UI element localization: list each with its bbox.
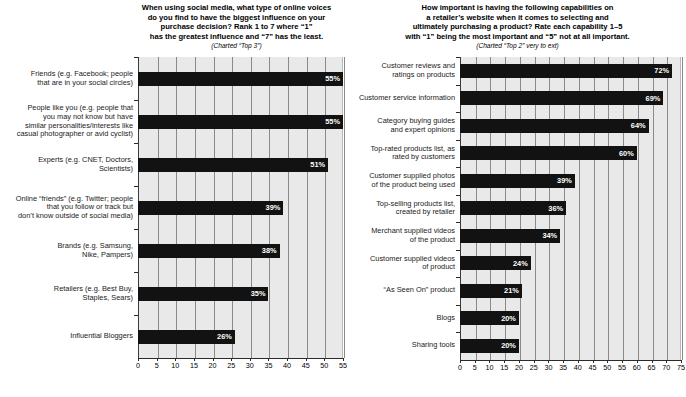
bar-row: Customer supplied photos of the product … [345,167,686,195]
x-axis-tick-label: 30 [246,362,254,369]
y-axis-tick [456,332,460,333]
x-axis-tick-label: 55 [618,364,626,371]
x-axis-tick-label: 0 [136,362,140,369]
bar-track: 39% [460,167,686,195]
chart-panel-left: When using social media, what type of on… [0,0,345,397]
bar: 64% [460,119,649,133]
bar-track: 24% [460,250,686,278]
bar-value-label: 39% [266,204,284,211]
bar-track: 72% [460,57,686,85]
bar-row: Online “friends” (e.g. Twitter; people t… [0,186,345,229]
bar-row: Retailers (e.g. Best Buy, Staples, Sears… [0,272,345,315]
x-axis-tick-label: 10 [171,362,179,369]
y-axis-tick [134,100,138,101]
bar-row: Blogs20% [345,305,686,333]
bar-track: 21% [460,277,686,305]
category-label: Merchant supplied videos of the product [345,227,460,244]
bar-row: Top-selling products list, created by re… [345,195,686,223]
x-axis-left: 0510152025303540455055 [0,358,345,374]
x-axis-tick-label: 0 [458,364,462,371]
x-axis-tick-label: 40 [283,362,291,369]
bar-row: Influential Bloggers26% [0,315,345,358]
plot-wrap-left: Friends (e.g. Facebook; people that are … [0,57,345,374]
bar-value-label: 51% [310,161,328,168]
x-axis-tick-label: 65 [648,364,656,371]
bar-row: Top-rated products list, as rated by cus… [345,140,686,168]
x-axis-tick-label: 25 [530,364,538,371]
y-axis-tick [134,229,138,230]
category-label: Top-selling products list, created by re… [345,200,460,217]
x-axis-tick-label: 30 [544,364,552,371]
y-axis-tick [456,222,460,223]
bar-value-label: 69% [646,95,664,102]
bar: 60% [460,146,637,160]
bar-track: 26% [138,315,345,358]
bar-value-label: 24% [513,260,531,267]
x-axis-tick-label: 45 [589,364,597,371]
y-axis-tick [134,186,138,187]
x-axis-tick-label: 70 [662,364,670,371]
bar-track: 39% [138,186,345,229]
bar-value-label: 34% [542,232,560,239]
bar: 55% [138,72,343,86]
chart-subtitle-right: (Charted “Top 2” very to ext) [345,41,686,50]
category-label: Online “friends” (e.g. Twitter; people t… [0,195,138,221]
x-axis-tick-label: 35 [559,364,567,371]
bar-track: 36% [460,195,686,223]
y-axis-tick [456,250,460,251]
bar-value-label: 21% [504,287,522,294]
bar: 72% [460,64,672,78]
category-label: Customer service information [345,94,460,103]
bar-track: 55% [138,57,345,100]
bar-row: Customer service information69% [345,85,686,113]
bar-value-label: 38% [262,247,280,254]
bar: 39% [138,201,283,215]
y-axis-tick [456,167,460,168]
bar-row: People like you (e.g. people that you ma… [0,100,345,143]
x-axis-tick-label: 75 [677,364,685,371]
bar-value-label: 55% [325,118,343,125]
x-axis-tick-label: 35 [264,362,272,369]
bar: 51% [138,158,328,172]
category-label: Customer reviews and ratings on products [345,62,460,79]
x-axis-line [138,358,343,359]
bar-track: 20% [460,332,686,360]
y-axis-tick [456,112,460,113]
bar-value-label: 64% [631,122,649,129]
y-axis-tick [134,143,138,144]
bar-rows-left: Friends (e.g. Facebook; people that are … [0,57,345,358]
bar: 24% [460,256,531,270]
y-axis-tick [456,57,460,58]
bar-track: 55% [138,100,345,143]
chart-panel-right: How important is having the following ca… [345,0,686,397]
bar-row: Friends (e.g. Facebook; people that are … [0,57,345,100]
category-label: Friends (e.g. Facebook; people that are … [0,70,138,87]
chart-subtitle-left: (Charted “Top 3”) [0,41,345,50]
bar-row: Merchant supplied videos of the product3… [345,222,686,250]
bar: 21% [460,284,522,298]
bar-track: 69% [460,85,686,113]
y-axis-tick [456,305,460,306]
bar-track: 51% [138,143,345,186]
x-axis-tick-label: 40 [574,364,582,371]
x-axis-tick-label: 5 [473,364,477,371]
bar: 20% [460,339,519,353]
bar-row: Category buying guides and expert opinio… [345,112,686,140]
bar-value-label: 55% [325,75,343,82]
y-axis-tick [456,277,460,278]
category-label: Customer supplied photos of the product … [345,172,460,189]
bar-row: Customer reviews and ratings on products… [345,57,686,85]
category-label: Category buying guides and expert opinio… [345,117,460,134]
bar-track: 38% [138,229,345,272]
bar-value-label: 26% [217,333,235,340]
x-axis-tick-label: 5 [155,362,159,369]
y-axis-tick [134,315,138,316]
bar-row: Experts (e.g. CNET, Doctors, Scientists)… [0,143,345,186]
x-axis-tick-label: 25 [227,362,235,369]
category-label: People like you (e.g. people that you ma… [0,104,138,138]
bar: 38% [138,244,280,258]
x-axis-tick-label: 20 [515,364,523,371]
x-axis-line [460,360,681,361]
x-axis-tick-label: 15 [500,364,508,371]
bar: 34% [460,229,560,243]
